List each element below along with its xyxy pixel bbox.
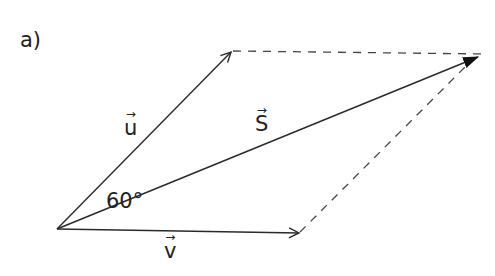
vector-parallelogram-diagram: [0, 0, 495, 276]
vector-s-label: → S: [255, 106, 268, 136]
vector-v-label: → v: [164, 233, 176, 263]
angle-label: 60°: [106, 189, 143, 213]
vector-v-arrow: [57, 229, 299, 233]
part-label: a): [20, 28, 41, 52]
vector-u-arrow: [57, 52, 231, 229]
dashed-side-right: [300, 62, 470, 232]
dashed-side-top: [233, 51, 485, 54]
vector-u-label: → u: [124, 110, 137, 140]
